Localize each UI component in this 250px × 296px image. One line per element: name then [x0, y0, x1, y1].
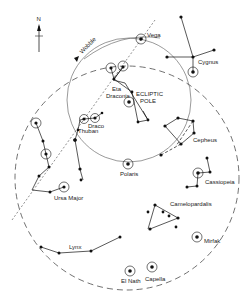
vega-label: Vega: [147, 32, 161, 38]
eta-label: Eta: [112, 86, 122, 92]
thuban-label: Thuban: [78, 128, 98, 134]
precession-circle: [15, 66, 239, 290]
cepheus-label: Cepheus: [193, 137, 217, 143]
cassiopeia-label: Cassiopeia: [205, 179, 235, 185]
camelopardalis-label: Camelopardalis: [170, 201, 212, 207]
pole-label: POLE: [140, 98, 156, 104]
wobble-arrow-icon: [74, 56, 79, 62]
compass-label: N: [37, 16, 41, 22]
capella-label: Capella: [145, 276, 166, 282]
polaris-label: Polaris: [120, 171, 138, 177]
ursa-major-label: Ursa Major: [54, 195, 83, 201]
ecliptic-label: ECLIPTIC: [136, 91, 164, 97]
camelopardalis-lines: [148, 205, 178, 229]
ursa-major-lines: [32, 123, 64, 192]
cygnus-label: Cygnus: [198, 59, 218, 65]
north-compass-icon: [35, 24, 43, 52]
mirfak-label: Mirfak: [204, 238, 221, 244]
draco-lines: [75, 67, 148, 180]
lynx-label: Lynx: [69, 244, 81, 250]
elnath-label: El Nath: [121, 278, 141, 284]
star-chart: N Wobble Cygnus Vega Eta Draconis: [0, 0, 250, 296]
